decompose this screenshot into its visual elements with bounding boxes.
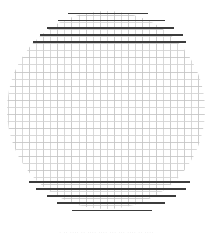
figure-caption: · ·· ···· ·· ···· ···· ··· ··· ···· ·· ·… (0, 226, 213, 238)
figure-background (0, 0, 213, 238)
circular-mesh-grid (0, 0, 213, 238)
scanned-mesh-figure: · ·· ···· ·· ···· ···· ··· ··· ···· ·· ·… (0, 0, 213, 238)
